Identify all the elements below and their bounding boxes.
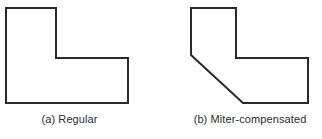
panel-caption-a: (a) Regular xyxy=(0,112,139,126)
figure-container: (a) Regular (b) Miter-compensated xyxy=(0,0,322,139)
panel-caption-b: (b) Miter-compensated xyxy=(160,112,322,126)
